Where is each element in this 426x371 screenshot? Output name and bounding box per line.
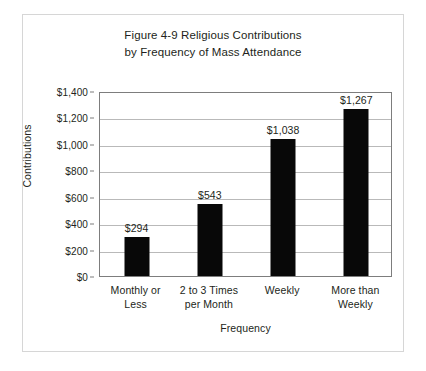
- bar-value-label: $1,038: [267, 124, 300, 136]
- chart-title-line-2: by Frequency of Mass Attendance: [40, 44, 386, 61]
- figure-root: Figure 4-9 Religious Contributions by Fr…: [0, 0, 426, 371]
- chart-title: Figure 4-9 Religious Contributions by Fr…: [40, 27, 386, 61]
- bar[interactable]: [197, 204, 222, 276]
- bar[interactable]: [271, 139, 296, 276]
- x-axis-tick-label: Weekly: [246, 283, 319, 297]
- y-axis-tick-mark: [90, 118, 94, 119]
- bar-value-label: $294: [125, 222, 149, 234]
- bar[interactable]: [124, 237, 149, 276]
- x-axis-tick-label-line: Monthly or: [99, 283, 172, 297]
- y-axis-tick-label: $1,000: [57, 139, 88, 150]
- x-axis-tick-label-line: Less: [99, 297, 172, 311]
- y-axis-tick-labels: $0$200$400$600$800$1,000$1,200$1,400: [42, 92, 94, 277]
- x-axis-title: Frequency: [99, 322, 392, 334]
- y-axis-tick-label: $200: [65, 245, 88, 256]
- chart-title-line-1: Figure 4-9 Religious Contributions: [40, 27, 386, 44]
- x-axis-tick-label-line: Weekly: [246, 283, 319, 297]
- bar-group[interactable]: $1,267: [320, 93, 393, 276]
- y-axis-tick-label: $600: [65, 192, 88, 203]
- y-axis-tick-mark: [90, 277, 94, 278]
- y-axis-tick-mark: [90, 197, 94, 198]
- y-axis-title: Contributions: [21, 111, 33, 201]
- bar-group[interactable]: $294: [100, 93, 173, 276]
- x-axis-tick-label-line: per Month: [172, 297, 245, 311]
- x-axis-tick-label: More thanWeekly: [319, 283, 392, 311]
- bar[interactable]: [344, 109, 369, 276]
- y-axis-tick-mark: [90, 144, 94, 145]
- y-axis-tick-label: $800: [65, 166, 88, 177]
- bar-group[interactable]: $1,038: [247, 93, 320, 276]
- x-axis-tick-label: 2 to 3 Timesper Month: [172, 283, 245, 311]
- y-axis-tick-mark: [90, 224, 94, 225]
- x-axis-tick-label-line: More than: [319, 283, 392, 297]
- bar-group[interactable]: $543: [173, 93, 246, 276]
- y-axis-tick-mark: [90, 171, 94, 172]
- bars-layer: $294$543$1,038$1,267: [100, 93, 391, 276]
- x-axis-tick-label: Monthly orLess: [99, 283, 172, 311]
- bar-value-label: $1,267: [340, 94, 373, 106]
- y-axis-tick-label: $1,400: [57, 87, 88, 98]
- bar-value-label: $543: [198, 189, 222, 201]
- y-axis-tick-label: $1,200: [57, 113, 88, 124]
- y-axis-tick-mark: [90, 92, 94, 93]
- x-axis-tick-label-line: 2 to 3 Times: [172, 283, 245, 297]
- plot-area: $294$543$1,038$1,267: [99, 92, 392, 277]
- x-axis-tick-label-line: Weekly: [319, 297, 392, 311]
- y-axis-tick-mark: [90, 250, 94, 251]
- x-axis-tick-labels: Monthly orLess2 to 3 Timesper MonthWeekl…: [99, 283, 392, 317]
- y-axis-tick-label: $0: [77, 272, 88, 283]
- y-axis-tick-label: $400: [65, 219, 88, 230]
